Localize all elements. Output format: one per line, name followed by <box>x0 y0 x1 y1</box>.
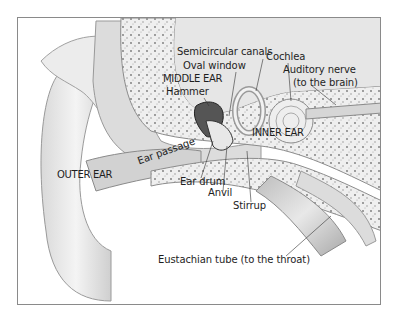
label-eustachian-tube: Eustachian tube (to the throat) <box>158 254 310 265</box>
label-oval-window: Oval window <box>183 60 246 71</box>
label-cochlea: Cochlea <box>266 51 305 62</box>
label-stirrup: Stirrup <box>233 200 266 211</box>
label-semicircular-canals: Semicircular canals <box>177 46 272 57</box>
label-middle-ear: MIDDLE EAR <box>163 73 222 84</box>
label-hammer: Hammer <box>166 86 209 97</box>
label-ear-drum: Ear drum <box>180 176 225 187</box>
label-outer-ear: OUTER EAR <box>57 169 112 180</box>
label-anvil: Anvil <box>208 187 232 198</box>
label-inner-ear: INNER EAR <box>252 127 304 138</box>
label-to-the-brain: (to the brain) <box>293 77 358 88</box>
label-auditory-nerve: Auditory nerve <box>283 64 356 75</box>
